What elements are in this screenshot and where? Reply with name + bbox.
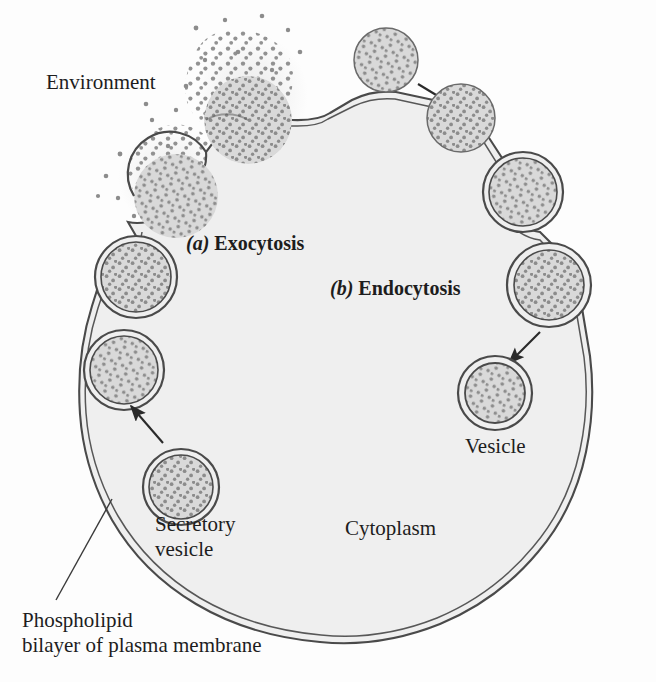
vesicle-pinching-off (507, 243, 591, 327)
figure-canvas: Environment (a) Exocytosis (b) Endocytos… (0, 0, 656, 682)
label-environment: Environment (46, 70, 156, 95)
label-secretory-vesicle: Secretory vesicle (155, 512, 235, 562)
label-endocytosis-marker: (b) (330, 277, 353, 299)
label-endocytosis: (b) Endocytosis (330, 277, 461, 301)
label-exocytosis-marker: (a) (186, 232, 209, 254)
particle-at-membrane (427, 84, 495, 152)
vesicle-docking (84, 330, 164, 410)
cell-diagram-svg (0, 0, 656, 682)
label-cytoplasm: Cytoplasm (345, 516, 436, 541)
label-endocytosis-text: Endocytosis (358, 277, 460, 299)
vesicle-internalized (458, 356, 532, 430)
vesicle-open-pore (134, 154, 218, 238)
particle-cluster-free (354, 28, 418, 92)
membrane-invaginating (483, 152, 563, 232)
label-vesicle: Vesicle (465, 434, 526, 459)
label-exocytosis-text: Exocytosis (214, 232, 304, 254)
label-exocytosis: (a) Exocytosis (186, 232, 304, 256)
vesicle-fusing (95, 236, 177, 318)
leader-line-phospholipid (56, 499, 112, 600)
label-phospholipid-bilayer: Phospholipid bilayer of plasma membrane (22, 608, 262, 658)
